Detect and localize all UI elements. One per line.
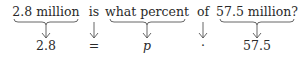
arrow-down-icon (253, 25, 261, 38)
value-2-8: 2.8 (36, 39, 56, 53)
arrow-down-icon (90, 22, 98, 38)
equals-sign: = (89, 39, 99, 53)
underbrace-1 (14, 19, 78, 25)
underbrace-3 (220, 19, 294, 25)
multiplication-dot: · (201, 39, 205, 53)
value-57-5: 57.5 (243, 39, 271, 53)
arrow-down-icon (143, 25, 151, 38)
underbrace-2 (110, 19, 185, 25)
arrow-down-icon (42, 25, 50, 38)
arrow-down-icon (199, 22, 207, 38)
variable-p: p (143, 39, 151, 53)
